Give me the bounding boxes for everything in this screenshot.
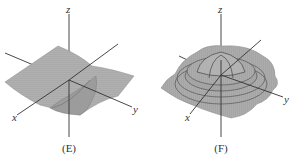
panel-caption-e: (E) — [49, 143, 89, 154]
y-axis-label: y — [284, 94, 289, 105]
z-axis-label: z — [218, 4, 222, 15]
surface-f-graphic — [147, 0, 295, 161]
surface-plot-e: z y x (E) — [0, 0, 148, 161]
y-axis-label: y — [133, 104, 138, 115]
surface-plot-f: z y x (F) — [147, 0, 295, 161]
x-axis-label: x — [185, 112, 190, 123]
surface-e-graphic — [0, 0, 148, 161]
panel-caption-f: (F) — [201, 143, 241, 154]
z-axis-label: z — [66, 4, 70, 15]
x-axis-label: x — [12, 112, 17, 123]
